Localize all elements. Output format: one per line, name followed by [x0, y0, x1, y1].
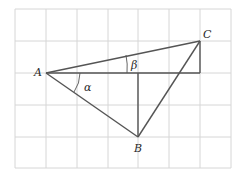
grid	[15, 9, 231, 168]
triangle-diagram: A B C α β	[0, 0, 243, 178]
segment-AC	[46, 41, 200, 73]
point-label-C: C	[203, 28, 212, 41]
point-label-A: A	[33, 66, 42, 79]
beta-arc	[126, 55, 127, 73]
angle-label-alpha: α	[84, 81, 92, 94]
angle-label-beta: β	[130, 59, 137, 72]
triangle-lines	[46, 41, 200, 137]
point-label-B: B	[133, 142, 142, 155]
